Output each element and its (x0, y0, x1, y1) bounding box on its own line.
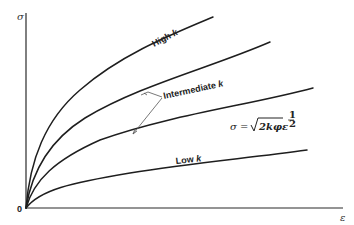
svg-text:Intermediate k: Intermediate k (162, 78, 225, 101)
curve-intermediate-k-lower (26, 88, 313, 208)
x-axis-label: ε (340, 212, 345, 223)
label-intermediate-k: Intermediate k (162, 78, 225, 101)
svg-text:High k: High k (150, 27, 180, 49)
label-high-k: High k (150, 27, 180, 49)
origin-label: 0 (17, 204, 22, 214)
svg-text:2kφε: 2kφε (258, 121, 288, 132)
stress-strain-chart: σ ε 0 High k Intermediate k Low k σ = 2k… (0, 0, 354, 225)
svg-text:σ =: σ = (230, 121, 248, 132)
curve-high-k (26, 17, 213, 208)
svg-text:2: 2 (289, 118, 296, 129)
curve-low-k (26, 150, 307, 208)
y-axis-label: σ (17, 11, 25, 22)
equation: σ = 2kφε 1 2 (230, 109, 296, 132)
